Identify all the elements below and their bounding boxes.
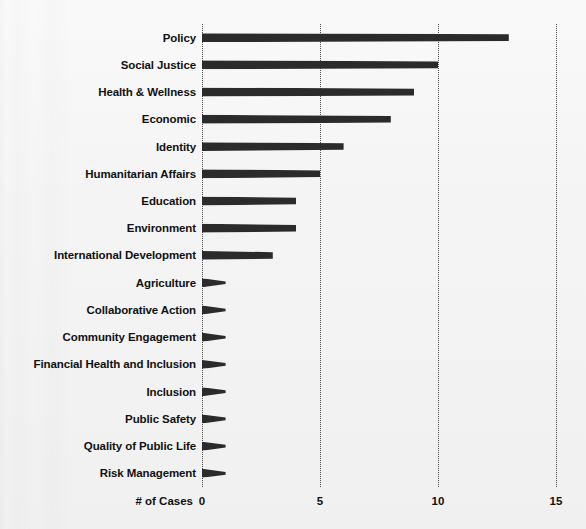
bar — [202, 305, 226, 314]
bar — [202, 224, 296, 233]
bar-row: Humanitarian Affairs — [202, 160, 556, 187]
bar — [202, 469, 226, 478]
bar — [202, 60, 438, 69]
category-label: Education — [141, 195, 196, 207]
category-label: Identity — [156, 141, 196, 153]
bar-row: Education — [202, 187, 556, 214]
bar-row: Public Safety — [202, 405, 556, 432]
bar — [202, 278, 226, 287]
bar-row: Risk Management — [202, 460, 556, 487]
bar-row: Collaborative Action — [202, 296, 556, 323]
bar — [202, 333, 226, 342]
plot-area: PolicySocial JusticeHealth & WellnessEco… — [202, 24, 556, 487]
category-label: International Development — [54, 249, 196, 261]
bar-row: International Development — [202, 242, 556, 269]
category-label: Health & Wellness — [98, 86, 196, 98]
bar — [202, 360, 226, 369]
gridline-15 — [556, 24, 557, 487]
bar — [202, 88, 414, 97]
category-label: Community Engagement — [63, 331, 196, 343]
bar-row: Financial Health and Inclusion — [202, 351, 556, 378]
category-label: Environment — [127, 222, 196, 234]
bar-row: Policy — [202, 24, 556, 51]
bar — [202, 442, 226, 451]
bar-row: Quality of Public Life — [202, 433, 556, 460]
category-label: Agriculture — [136, 277, 196, 289]
bar — [202, 115, 391, 124]
category-label: Humanitarian Affairs — [85, 168, 196, 180]
bar-row: Social Justice — [202, 51, 556, 78]
category-label: Collaborative Action — [87, 304, 196, 316]
bar — [202, 197, 296, 206]
category-label: Social Justice — [121, 59, 196, 71]
category-label: Inclusion — [146, 386, 196, 398]
category-label: Risk Management — [100, 467, 196, 479]
category-label: Economic — [142, 113, 196, 125]
bar — [202, 169, 320, 178]
x-tick-label: 15 — [550, 495, 563, 507]
category-label: Quality of Public Life — [84, 440, 196, 452]
category-label: Financial Health and Inclusion — [34, 358, 197, 370]
x-tick-label: 5 — [317, 495, 323, 507]
bar-chart: PolicySocial JusticeHealth & WellnessEco… — [0, 0, 586, 529]
x-tick-label: 10 — [432, 495, 445, 507]
bar — [202, 387, 226, 396]
category-label: Policy — [163, 32, 196, 44]
x-axis-title: # of Cases — [135, 495, 193, 507]
x-tick-label: 0 — [199, 495, 205, 507]
bar-row: Economic — [202, 106, 556, 133]
bar-row: Inclusion — [202, 378, 556, 405]
bar-row: Identity — [202, 133, 556, 160]
bar — [202, 251, 273, 260]
bar-row: Health & Wellness — [202, 78, 556, 105]
bar — [202, 142, 344, 151]
bar-row: Community Engagement — [202, 324, 556, 351]
bar — [202, 414, 226, 423]
category-label: Public Safety — [125, 413, 196, 425]
x-axis: # of Cases 051015 — [202, 487, 556, 527]
bar-row: Agriculture — [202, 269, 556, 296]
bar-row: Environment — [202, 215, 556, 242]
bar — [202, 33, 509, 42]
